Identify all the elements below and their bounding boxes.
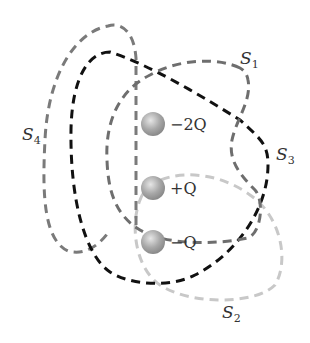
surface-s4: [44, 25, 136, 252]
svg-text:S2: S2: [222, 302, 241, 325]
label-s1: S1: [240, 48, 259, 71]
svg-text:+Q: +Q: [170, 179, 197, 198]
gaussian-surfaces-diagram: −2Q +Q −Q S1 S2 S3 S4: [0, 0, 310, 343]
charge-minus-2q: −2Q: [141, 112, 207, 136]
charge-minus-q: −Q: [141, 230, 197, 254]
svg-text:S4: S4: [22, 124, 41, 147]
svg-text:S3: S3: [276, 144, 295, 167]
svg-text:S1: S1: [240, 48, 259, 71]
charge-plus-q: +Q: [141, 176, 197, 200]
svg-text:−Q: −Q: [170, 233, 197, 252]
svg-text:−2Q: −2Q: [170, 115, 207, 134]
surface-s1: [107, 61, 261, 242]
label-s2: S2: [222, 302, 241, 325]
label-s3: S3: [276, 144, 295, 167]
label-s4: S4: [22, 124, 41, 147]
